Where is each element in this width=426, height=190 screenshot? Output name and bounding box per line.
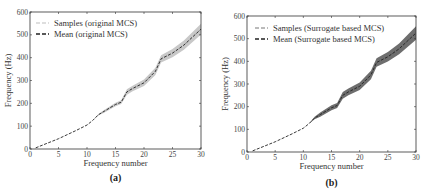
x-tick-label: 30 <box>197 150 205 159</box>
legend-mean-label: Mean (Surrogate based MCS) <box>273 34 375 44</box>
y-tick-label: 600 <box>234 12 246 21</box>
panel-caption: (b) <box>325 177 337 189</box>
x-tick-label: 5 <box>273 153 277 162</box>
y-tick-label: 300 <box>17 76 29 85</box>
x-axis-label: Frequency number <box>84 158 148 168</box>
y-tick-label: 0 <box>24 145 28 154</box>
y-tick-label: 500 <box>234 34 246 43</box>
x-axis-label: Frequency number <box>300 161 364 171</box>
legend-mean-label: Mean (original MCS) <box>54 29 128 39</box>
x-tick-label: 25 <box>384 153 392 162</box>
y-tick-label: 500 <box>17 30 29 39</box>
x-tick-label: 0 <box>245 153 249 162</box>
x-tick-label: 25 <box>169 150 177 159</box>
y-tick-label: 100 <box>17 122 29 131</box>
chart-panel-b: 0510152025300100200300400500600Frequency… <box>220 12 420 190</box>
x-tick-label: 5 <box>57 150 61 159</box>
y-tick-label: 200 <box>17 99 29 108</box>
y-tick-label: 600 <box>17 8 29 17</box>
y-tick-label: 0 <box>241 148 245 157</box>
samples-band <box>36 24 201 148</box>
y-tick-label: 400 <box>17 53 29 62</box>
x-tick-label: 0 <box>28 150 32 159</box>
legend-samples-label: Samples (Surrogate based MCS) <box>273 23 384 33</box>
figure: 0510152025300100200300400500600Frequency… <box>0 0 426 190</box>
samples-band <box>253 26 416 151</box>
y-tick-label: 100 <box>234 125 246 134</box>
legend-samples-label: Samples (original MCS) <box>54 18 137 28</box>
y-axis-label: Frequency (Hz) <box>220 57 230 111</box>
y-tick-label: 300 <box>234 80 246 89</box>
y-axis-label: Frequency (Hz) <box>3 54 13 108</box>
chart-panel-a: 0510152025300100200300400500600Frequency… <box>3 8 205 185</box>
panel-caption: (a) <box>110 172 122 184</box>
y-tick-label: 400 <box>234 57 246 66</box>
x-tick-label: 30 <box>412 153 420 162</box>
y-tick-label: 200 <box>234 102 246 111</box>
